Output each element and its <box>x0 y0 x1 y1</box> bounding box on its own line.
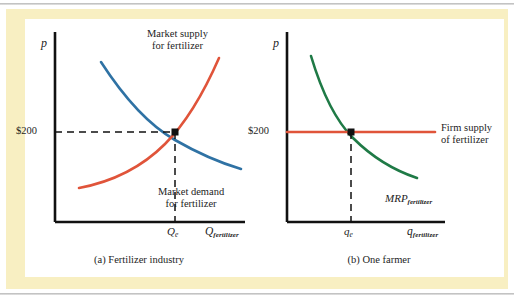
market-supply-label-line2: for fertilizer <box>147 40 208 52</box>
market-supply-label: Market supply for fertilizer <box>147 28 208 53</box>
firm-supply-label-line1: Firm supply <box>441 122 492 134</box>
mrp-label: MRPfertilizer <box>385 192 432 206</box>
x-axis-label: Qfertilizer <box>205 225 239 239</box>
x-axis-label: qfertilizer <box>407 225 438 239</box>
mrp-curve <box>311 56 417 178</box>
panel-fertilizer-industry: p $200 Market supply for fertilizer Mark… <box>19 10 259 268</box>
mrp-label-base: MRP <box>385 192 408 204</box>
equilibrium-marker <box>348 129 355 136</box>
scan-rule-bottom <box>0 293 514 295</box>
y-axis-label: p <box>273 36 279 50</box>
equilibrium-quantity-sub: e <box>175 230 178 239</box>
x-axis-label-sub: fertilizer <box>213 231 239 239</box>
panel-one-farmer: p $200 Firm supply of fertilizer MRPfert… <box>259 10 499 268</box>
x-axis-label-sub: fertilizer <box>413 231 439 239</box>
equilibrium-marker <box>172 129 179 136</box>
scan-rule-top <box>0 3 514 5</box>
firm-supply-label-line2: of fertilizer <box>441 134 492 146</box>
figure-root: p $200 Market supply for fertilizer Mark… <box>0 0 514 302</box>
panel-caption-a: (a) Fertilizer industry <box>19 254 259 265</box>
market-demand-curve <box>101 62 241 169</box>
market-demand-label-line2: for fertilizer <box>158 198 224 210</box>
price-tick-label: $200 <box>16 125 37 137</box>
market-supply-curve <box>79 58 219 188</box>
equilibrium-quantity-label: qe <box>344 225 353 239</box>
price-tick-label: $200 <box>248 125 269 137</box>
mrp-label-sub: fertilizer <box>408 198 433 206</box>
equilibrium-quantity-label: Qe <box>167 225 178 239</box>
firm-supply-label: Firm supply of fertilizer <box>441 122 492 147</box>
panel-caption-b: (b) One farmer <box>259 254 499 265</box>
market-demand-label: Market demand for fertilizer <box>158 186 224 211</box>
equilibrium-quantity-base: Q <box>167 225 175 237</box>
market-supply-label-line1: Market supply <box>147 28 208 40</box>
market-demand-label-line1: Market demand <box>158 186 224 198</box>
equilibrium-quantity-sub: e <box>350 230 353 239</box>
y-axis-label: p <box>41 36 47 50</box>
